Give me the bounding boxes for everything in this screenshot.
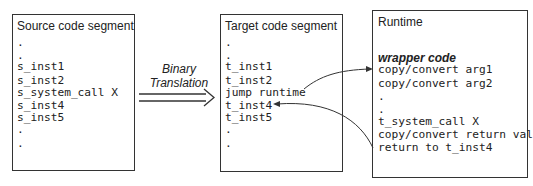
jump-to-runtime-arrow-icon <box>304 66 373 89</box>
translation-arrow-icon <box>139 89 214 106</box>
return-to-target-arrow-icon <box>273 101 373 148</box>
